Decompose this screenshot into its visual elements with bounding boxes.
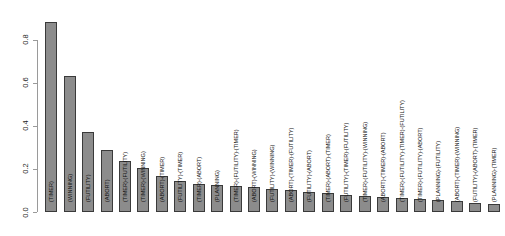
bar-label: (PLANNING)-(TIMER): [491, 148, 497, 202]
bar-slot: (TIMER)-(ABORT): [190, 0, 208, 212]
bar[interactable]: (ABORT)-(TIMER)-(WINNING): [451, 201, 463, 212]
bar-slot: (TIMER): [42, 0, 60, 212]
bar[interactable]: (TIMER)-(FUTILITY)-(ABORT): [414, 199, 426, 212]
bar-label: (ABORT)-(TIMER): [159, 157, 165, 202]
bar-label: (ABORT): [104, 179, 110, 202]
bar[interactable]: (ABORT): [101, 150, 113, 213]
y-axis-tick-label-text: 0.2: [20, 164, 29, 174]
bar-slot: (ABORT)-(TIMER)-(WINNING): [448, 0, 466, 212]
bar-label: (FUTILITY)-(TIMER)-(FUTILITY): [343, 123, 349, 202]
bar[interactable]: (TIMER)-(FUTILITY)-(TIMER): [230, 186, 242, 212]
bar-label: (ABORT)-(TIMER)-(WINNING): [454, 127, 460, 202]
bar-slot: (PLANNING)-(FUTILITY): [429, 0, 447, 212]
bar-label: (TIMER)-(FUTILITY): [122, 152, 128, 202]
bar-label: (ABORT)-(WINNING): [251, 150, 257, 203]
bar[interactable]: (ABORT)-(TIMER): [156, 176, 168, 212]
bar-label: (WINNING): [67, 174, 73, 202]
bar-label: (ABORT)-(TIMER)-(ABORT): [380, 133, 386, 203]
bar-slot: (TIMER)-(WINNING): [134, 0, 152, 212]
y-axis-tick: [33, 212, 37, 213]
bar[interactable]: (PLANNING): [211, 185, 223, 212]
bar-chart: 0.00.20.40.60.8 (TIMER)(WINNING)(FUTILIT…: [0, 0, 505, 236]
y-axis-tick-label: 0.4: [0, 121, 30, 131]
bar[interactable]: (TIMER): [45, 22, 57, 212]
bar-label: (TIMER)-(ABORT): [196, 157, 202, 202]
y-axis-tick: [33, 169, 37, 170]
bar-label: (FUTILITY)-(ABORT): [306, 150, 312, 202]
y-axis-tick: [33, 83, 37, 84]
bar[interactable]: (WINNING): [64, 76, 76, 212]
y-axis-tick-label: 0.0: [0, 207, 30, 217]
plot-area: (TIMER)(WINNING)(FUTILITY)(ABORT)(TIMER)…: [42, 0, 503, 236]
bar-slot: (FUTILITY)-(TIMER): [171, 0, 189, 212]
bar-label: (TIMER): [48, 181, 54, 202]
bar[interactable]: (TIMER)-(ABORT)-(TIMER): [322, 193, 334, 212]
y-axis: 0.00.20.40.60.8: [0, 0, 40, 236]
bar-label: (PLANNING): [214, 170, 220, 202]
bar-label: (TIMER)-(FUTILITY)-(TIMER)-(FUTILITY): [399, 100, 405, 202]
bar[interactable]: (TIMER)-(FUTILITY)-(WINNING): [359, 196, 371, 212]
bar[interactable]: (FUTILITY)-(ABORT)-(TIMER): [469, 203, 481, 212]
y-axis-tick-label-text: 0.4: [20, 121, 29, 131]
bar-slot: (TIMER)-(FUTILITY): [116, 0, 134, 212]
y-axis-tick: [33, 126, 37, 127]
y-axis-tick-label-text: 0.8: [20, 34, 29, 44]
bar-label: (FUTILITY)-(WINNING): [269, 145, 275, 202]
bar[interactable]: (FUTILITY): [82, 132, 94, 212]
bar[interactable]: (PLANNING)-(TIMER): [488, 204, 500, 212]
bar-label: (TIMER)-(FUTILITY)-(TIMER): [233, 129, 239, 202]
bar-slot: (ABORT)-(WINNING): [245, 0, 263, 212]
bar-label: (PLANNING)-(FUTILITY): [435, 141, 441, 202]
bar[interactable]: (TIMER)-(WINNING): [137, 168, 149, 212]
bar[interactable]: (TIMER)-(FUTILITY): [119, 161, 131, 212]
bar-slot: (TIMER)-(FUTILITY)-(TIMER): [226, 0, 244, 212]
bar-slot: (FUTILITY)-(ABORT): [300, 0, 318, 212]
bar[interactable]: (ABORT)-(TIMER)-(FUTILITY): [285, 190, 297, 212]
bar-slot: (TIMER)-(FUTILITY)-(TIMER)-(FUTILITY): [392, 0, 410, 212]
bar-slot: (FUTILITY): [79, 0, 97, 212]
bar-slot: (FUTILITY)-(TIMER)-(FUTILITY): [337, 0, 355, 212]
bar-slot: (PLANNING): [208, 0, 226, 212]
bar[interactable]: (ABORT)-(TIMER)-(ABORT): [377, 197, 389, 212]
y-axis-tick-label: 0.2: [0, 164, 30, 174]
bar[interactable]: (FUTILITY)-(TIMER): [174, 181, 186, 212]
y-axis-tick-label: 0.8: [0, 35, 30, 45]
bar-label: (TIMER)-(FUTILITY)-(ABORT): [417, 128, 423, 202]
y-axis-line: [37, 40, 38, 212]
bar[interactable]: (FUTILITY)-(ABORT): [303, 192, 315, 212]
bar-slot: (TIMER)-(ABORT)-(TIMER): [319, 0, 337, 212]
x-axis-baseline: [42, 212, 503, 213]
bar-series: (TIMER)(WINNING)(FUTILITY)(ABORT)(TIMER)…: [42, 0, 503, 212]
bar-slot: (WINNING): [60, 0, 78, 212]
bar-label: (TIMER)-(WINNING): [140, 151, 146, 202]
bar-label: (TIMER)-(ABORT)-(TIMER): [325, 134, 331, 202]
bar[interactable]: (TIMER)-(FUTILITY)-(TIMER)-(FUTILITY): [396, 198, 408, 212]
bar-label: (FUTILITY)-(TIMER): [177, 152, 183, 202]
bar[interactable]: (ABORT)-(WINNING): [248, 187, 260, 212]
bar[interactable]: (FUTILITY)-(TIMER)-(FUTILITY): [340, 195, 352, 212]
bar-slot: (ABORT)-(TIMER): [153, 0, 171, 212]
bar-slot: (TIMER)-(FUTILITY)-(WINNING): [355, 0, 373, 212]
bar-slot: (PLANNING)-(TIMER): [485, 0, 503, 212]
bar-slot: (ABORT)-(TIMER)-(ABORT): [374, 0, 392, 212]
bar-slot: (FUTILITY)-(ABORT)-(TIMER): [466, 0, 484, 212]
bar[interactable]: (TIMER)-(ABORT): [193, 184, 205, 212]
y-axis-tick-label: 0.6: [0, 78, 30, 88]
bar-label: (TIMER)-(FUTILITY)-(WINNING): [362, 122, 368, 202]
bar-label: (FUTILITY)-(ABORT)-(TIMER): [472, 128, 478, 202]
bar-slot: (FUTILITY)-(WINNING): [263, 0, 281, 212]
y-axis-tick: [33, 40, 37, 41]
bar-slot: (TIMER)-(FUTILITY)-(ABORT): [411, 0, 429, 212]
bar-label: (ABORT)-(TIMER)-(FUTILITY): [288, 128, 294, 202]
bar-slot: (ABORT): [97, 0, 115, 212]
y-axis-tick-label-text: 0.0: [20, 207, 29, 217]
y-axis-tick-label-text: 0.6: [20, 77, 29, 87]
bar[interactable]: (FUTILITY)-(WINNING): [266, 189, 278, 212]
bar[interactable]: (PLANNING)-(FUTILITY): [432, 200, 444, 212]
bar-label: (FUTILITY): [85, 175, 91, 202]
bar-slot: (ABORT)-(TIMER)-(FUTILITY): [282, 0, 300, 212]
